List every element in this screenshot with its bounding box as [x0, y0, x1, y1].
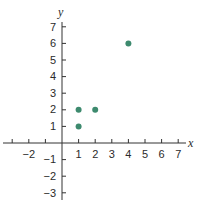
data-point: [76, 123, 82, 129]
data-point: [92, 107, 98, 113]
x-tick-label: 1: [76, 148, 82, 160]
y-tick-label: 7: [50, 21, 56, 33]
y-tick-label: 6: [50, 37, 56, 49]
y-tick-label: 4: [50, 70, 56, 82]
y-tick-label: 3: [50, 87, 56, 99]
scatter-plot: −2 1 2 3 4 5 6 7 7 6 5 4 3 2 1 −1 −2 −3 …: [0, 0, 199, 200]
y-tick-labels: 7 6 5 4 3 2 1 −1 −2 −3: [43, 21, 56, 199]
data-point: [76, 107, 82, 113]
x-tick-label: 7: [175, 148, 181, 160]
y-tick-label: 2: [50, 103, 56, 115]
y-tick-label: 1: [50, 120, 56, 132]
data-points: [76, 40, 132, 129]
y-ticks: [62, 27, 66, 193]
x-tick-label: 6: [159, 148, 165, 160]
data-point: [125, 40, 131, 46]
x-ticks: [12, 139, 178, 143]
x-tick-label: 4: [125, 148, 131, 160]
y-tick-label: −1: [43, 153, 56, 165]
x-tick-label: 5: [142, 148, 148, 160]
x-tick-label: 2: [92, 148, 98, 160]
y-axis-label: y: [57, 5, 64, 19]
x-axis-label: x: [187, 136, 194, 150]
y-tick-label: 5: [50, 54, 56, 66]
x-tick-label: 3: [109, 148, 115, 160]
y-tick-label: −2: [43, 170, 56, 182]
y-tick-label: −3: [43, 187, 56, 199]
x-tick-label: −2: [23, 148, 36, 160]
